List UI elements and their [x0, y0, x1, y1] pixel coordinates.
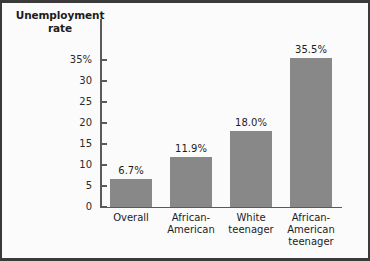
bar-group: 18.0% — [230, 19, 272, 207]
bar[interactable] — [110, 179, 152, 207]
category-label-line: African- — [281, 212, 341, 224]
category-label-line: Overall — [101, 212, 161, 224]
bar[interactable] — [170, 157, 212, 207]
y-tick-label: 15 — [79, 139, 92, 149]
x-axis-category-label: African-American — [161, 212, 221, 236]
category-label-line: American — [281, 224, 341, 236]
x-axis-category-label: African-Americanteenager — [281, 212, 341, 248]
y-tick-label: 30 — [79, 76, 92, 86]
y-tick-label: 5 — [86, 181, 92, 191]
x-axis-category-label: Whiteteenager — [221, 212, 281, 236]
y-tick-label: 35% — [70, 55, 92, 65]
x-axis-category-label: Overall — [101, 212, 161, 224]
category-label-line: African- — [161, 212, 221, 224]
y-tick-label: 10 — [79, 160, 92, 170]
bar-value-label: 18.0% — [230, 117, 272, 128]
bar-value-label: 11.9% — [170, 143, 212, 154]
bar-group: 35.5% — [290, 19, 332, 207]
chart-figure: Unemployment rate 05101520253035% 6.7%11… — [0, 0, 370, 261]
category-label-line: teenager — [281, 236, 341, 248]
bars-layer: 6.7%11.9%18.0%35.5% — [101, 19, 341, 207]
bar[interactable] — [290, 58, 332, 207]
y-tick-label: 25 — [79, 97, 92, 107]
category-label-line: American — [161, 224, 221, 236]
bar[interactable] — [230, 131, 272, 207]
bar-value-label: 35.5% — [290, 44, 332, 55]
bar-value-label: 6.7% — [110, 165, 152, 176]
y-tick-label: 0 — [86, 202, 92, 212]
bar-group: 6.7% — [110, 19, 152, 207]
category-label-line: White — [221, 212, 281, 224]
y-tick-label: 20 — [79, 118, 92, 128]
page-title: Unemployment rate — [8, 9, 112, 34]
chart-title-line-1: Unemployment — [8, 9, 112, 22]
category-label-line: teenager — [221, 224, 281, 236]
chart-title-line-2: rate — [8, 22, 112, 35]
bar-group: 11.9% — [170, 19, 212, 207]
